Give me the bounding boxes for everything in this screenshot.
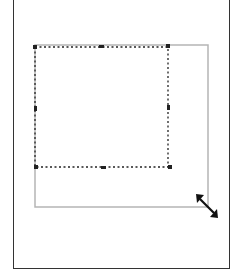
handle-top-right[interactable] (166, 44, 170, 48)
handle-top-middle[interactable] (99, 45, 104, 48)
resize-preview-outline (35, 45, 208, 207)
handle-bottom-left[interactable] (34, 165, 38, 169)
handle-bottom-middle[interactable] (101, 166, 106, 169)
drawing-canvas (0, 0, 244, 280)
diagonal-resize-cursor-icon (196, 194, 218, 218)
handle-middle-right[interactable] (167, 105, 170, 110)
handle-top-left[interactable] (33, 45, 37, 49)
handle-bottom-right[interactable] (168, 165, 172, 169)
selection-handles (33, 44, 172, 169)
handle-middle-left[interactable] (34, 106, 37, 111)
selection-box[interactable] (35, 47, 168, 167)
